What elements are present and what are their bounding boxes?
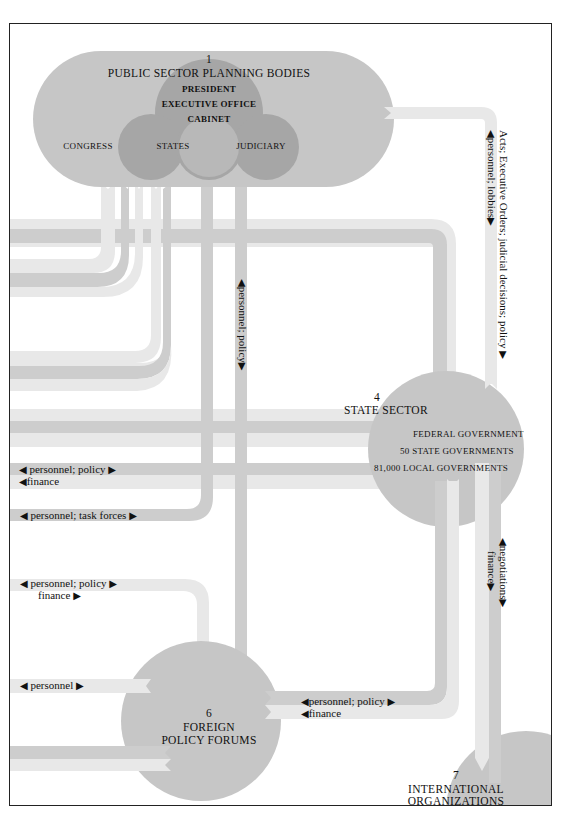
flow-text: finance <box>486 551 498 583</box>
flow-label-personnel-policy-vertical: ◀personnel; policy▶ <box>237 279 248 370</box>
flow-label-left-foreign-1-finance: finance ▶ <box>38 590 81 601</box>
foreign-policy-number: 6 <box>206 708 212 720</box>
state-sector-local: 81,000 LOCAL GOVERNMENTS <box>374 464 508 473</box>
flow-label-left-foreign-1: ◀ personnel; policy ▶ <box>20 578 117 589</box>
flow-label-personnel-lobbies: ◀personnel; lobbies▶ <box>486 130 497 226</box>
flow-label-acts: Acts; Executive Orders; judicial decisio… <box>498 130 509 359</box>
flow-label-negotiations: ◀negotiations▶ <box>498 538 509 607</box>
diagram-frame: 1 PUBLIC SECTOR PLANNING BODIES PRESIDEN… <box>9 23 552 806</box>
arrow-left-icon: ◀ <box>20 680 28 691</box>
flow-text: finance <box>309 707 341 719</box>
circle-judiciary: JUDICIARY <box>236 142 286 151</box>
arrow-right-icon: ▶ <box>498 599 509 607</box>
arrow-left-icon: ◀ <box>19 464 27 475</box>
arrow-left-icon: ◀ <box>20 510 28 521</box>
international-title-2: ORGANIZATIONS <box>408 796 505 806</box>
international-title-1: INTERNATIONAL <box>408 784 504 796</box>
arrow-right-icon: ▶ <box>237 363 248 371</box>
arrow-right-icon: ▶ <box>108 464 116 475</box>
public-sector-number: 1 <box>206 54 212 66</box>
arrow-right-icon: ▶ <box>76 680 84 691</box>
state-sector-states: 50 STATE GOVERNMENTS <box>400 447 514 456</box>
foreign-policy-title-2: POLICY FORUMS <box>161 735 256 747</box>
public-sector-title: PUBLIC SECTOR PLANNING BODIES <box>108 68 310 80</box>
arrow-right-icon: ▶ <box>129 510 137 521</box>
arrow-left-icon: ◀ <box>19 476 27 487</box>
arrow-left-icon: ◀ <box>498 538 509 546</box>
foreign-policy-title-1: FOREIGN <box>183 722 235 734</box>
arrow-left-icon: ◀ <box>237 279 248 287</box>
flow-label-state-foreign-finance: ◀finance <box>301 708 341 719</box>
flow-label-task-forces: ◀ personnel; task forces ▶ <box>20 510 137 521</box>
flow-label-left-state-1-finance: ◀finance <box>19 476 59 487</box>
arrow-right-icon: ▶ <box>486 218 497 226</box>
public-sector-president: PRESIDENT <box>182 85 236 94</box>
arrow-right-icon: ▶ <box>73 590 81 601</box>
flow-text: personnel; policy <box>309 695 385 707</box>
flow-text: negotiations <box>498 546 510 600</box>
flow-label-left-state-1: ◀ personnel; policy ▶ <box>19 464 116 475</box>
flow-text: finance <box>27 475 59 487</box>
public-sector-cabinet: CABINET <box>187 115 230 124</box>
flow-personnel-policy-text: personnel; policy <box>237 287 249 363</box>
flow-text: personnel <box>30 679 73 691</box>
flow-label-left-foreign-2: ◀ personnel ▶ <box>20 680 84 691</box>
flow-text: personnel; policy <box>30 577 106 589</box>
bar-left-foreign-3 <box>10 746 171 771</box>
arrow-left-icon: ◀ <box>486 130 497 138</box>
state-sector-federal: FEDERAL GOVERNMENT <box>413 430 524 439</box>
flow-text: personnel; task forces <box>30 509 126 521</box>
flow-personnel-lobbies-text: personnel; lobbies <box>486 138 498 218</box>
bar-state-to-international <box>475 463 501 783</box>
bar-vertical-personnel-policy <box>235 183 247 663</box>
international-number: 7 <box>453 770 459 782</box>
arrow-right-icon: ▶ <box>498 351 509 359</box>
flow-acts-text: Acts; Executive Orders; judicial decisio… <box>498 130 510 348</box>
circle-congress: CONGRESS <box>63 142 112 151</box>
state-sector-number: 4 <box>374 392 380 404</box>
flow-label-negotiations-finance: finance▶ <box>486 551 497 591</box>
circle-states: STATES <box>156 142 189 151</box>
flow-label-state-foreign: ◀personnel; policy ▶ <box>301 696 395 707</box>
arrow-left-icon: ◀ <box>301 696 309 707</box>
arrow-right-icon: ▶ <box>109 578 117 589</box>
arrow-right-icon: ▶ <box>486 583 497 591</box>
arrow-right-icon: ▶ <box>388 696 396 707</box>
arrow-left-icon: ◀ <box>20 578 28 589</box>
state-sector-title: STATE SECTOR <box>344 405 428 417</box>
public-sector-executive-office: EXECUTIVE OFFICE <box>162 100 257 109</box>
flow-text: finance <box>38 589 70 601</box>
arrow-left-icon: ◀ <box>301 708 309 719</box>
flow-text: personnel; policy <box>29 463 105 475</box>
